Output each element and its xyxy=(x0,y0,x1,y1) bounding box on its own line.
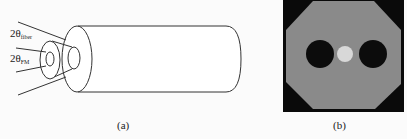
cone-outer-section xyxy=(40,41,60,79)
fiber-end-face xyxy=(62,26,92,92)
caption-a: (a) xyxy=(117,119,129,131)
right-hole xyxy=(359,40,387,68)
left-hole xyxy=(306,40,334,68)
caption-b: (b) xyxy=(333,119,346,131)
cross-section-image xyxy=(283,0,404,112)
label-theta-fiber: 2θfiber xyxy=(10,27,32,40)
center-core xyxy=(337,46,353,62)
fiber-diagram: 2θfiber 2θFM xyxy=(0,0,280,139)
label-theta-fm: 2θFM xyxy=(10,52,30,65)
cylinder-body xyxy=(78,26,241,92)
